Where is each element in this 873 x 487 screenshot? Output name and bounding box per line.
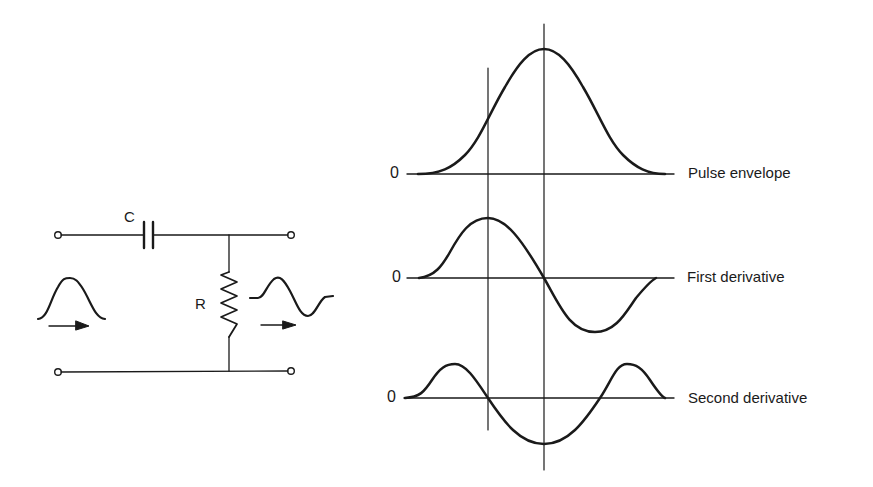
input-pulse-icon [38,278,105,319]
waveform-plots [404,24,674,470]
pulse-envelope-zero-label: 0 [390,164,399,182]
pulse-envelope-label: Pulse envelope [688,164,791,181]
capacitor-symbol [144,222,153,248]
second-derivative-zero-label: 0 [387,388,396,406]
output-pulse-icon [250,278,333,316]
resistor-symbol [221,272,237,337]
first-derivative-label: First derivative [687,268,785,285]
bottom-wire [61,371,288,372]
diagram-canvas [0,0,873,487]
output-terminal-bottom [288,368,295,375]
input-arrow-icon [49,321,89,330]
rc-circuit [38,222,333,375]
pulse-envelope-curve [418,49,665,174]
second-derivative-curve [405,364,665,444]
resistor-label: R [195,295,206,312]
first-derivative-zero-label: 0 [392,268,401,286]
first-derivative-curve [419,218,656,332]
output-arrow-icon [261,321,296,329]
output-terminal-top [288,232,295,239]
capacitor-label: C [124,208,135,225]
input-terminal-top [55,232,62,239]
input-terminal-bottom [55,369,62,376]
second-derivative-label: Second derivative [688,389,807,406]
